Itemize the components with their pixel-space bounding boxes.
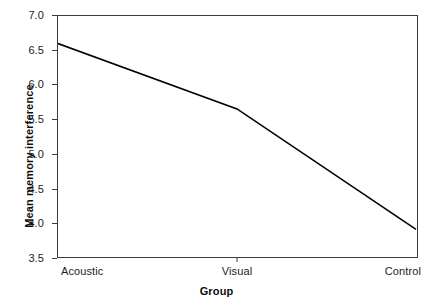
y-tick-label: 6.0: [28, 79, 44, 90]
x-axis-title: Group: [0, 285, 433, 297]
x-tick-label: Visual: [222, 265, 252, 277]
plot-line-svg: [58, 16, 417, 257]
y-tick-label: 5.0: [28, 148, 44, 159]
y-tick-label: 4.0: [28, 218, 44, 229]
y-tick-label: 4.5: [28, 183, 44, 194]
y-axis-tick-labels: 7.06.56.05.55.04.54.03.5: [0, 0, 52, 305]
y-tick-mark: [52, 258, 57, 259]
y-tick-label: 6.5: [28, 44, 44, 55]
y-tick-label: 3.5: [28, 253, 44, 264]
chart-figure: Mean memory interference 7.06.56.05.55.0…: [0, 0, 433, 305]
y-tick-label: 5.5: [28, 114, 44, 125]
data-series-line: [58, 44, 416, 230]
y-tick-label: 7.0: [28, 10, 44, 21]
plot-area: [57, 15, 418, 258]
x-tick-label: Acoustic: [61, 265, 103, 277]
x-tick-label: Control: [385, 265, 421, 277]
x-tick-mark: [237, 258, 238, 262]
